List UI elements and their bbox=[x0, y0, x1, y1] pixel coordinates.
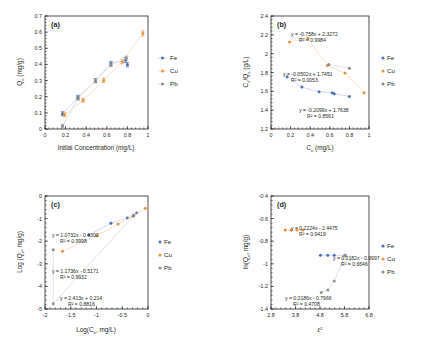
y-tick-label: 1.8 bbox=[261, 70, 269, 76]
legend-marker-cu bbox=[382, 258, 385, 261]
panel-b: 00.20.40.60.811.21.41.61.822.22.4 (b) y … bbox=[221, 0, 442, 179]
data-point-pb bbox=[109, 63, 112, 66]
panel-a-legend: FeCuPb bbox=[158, 54, 178, 87]
panel-d-xaxis-title: ε2 bbox=[317, 326, 323, 333]
legend-label-fe: Fe bbox=[170, 54, 178, 61]
data-point-pb bbox=[320, 291, 323, 294]
data-point-fe bbox=[326, 254, 329, 257]
x-tick-label: 0.6 bbox=[326, 132, 334, 138]
r-squared-line: R² = 0.9998 bbox=[60, 238, 87, 244]
y-tick-label: 1.2 bbox=[261, 126, 269, 132]
panel-b-label: (b) bbox=[277, 20, 287, 29]
panel-d-annotations: y = 0.2224x - 2.4475R² = 0.9419y = 0.018… bbox=[285, 225, 380, 307]
panel-d-legend: FeCuPb bbox=[382, 242, 396, 275]
panel-d-xlabel: ε2 bbox=[317, 326, 323, 333]
data-point-cu bbox=[117, 223, 120, 226]
x-tick-label: -0.5 bbox=[118, 312, 127, 318]
x-tick-label: 0.8 bbox=[346, 132, 354, 138]
data-point-pb bbox=[333, 279, 336, 282]
panel-d: 2.83.84.85.86.8-1.4-1.2-1-0.8-0.6-0.4 (d… bbox=[221, 180, 442, 359]
y-tick-label: 0.6 bbox=[35, 29, 43, 35]
data-point-cu bbox=[82, 99, 85, 102]
panel-c-plot: -2-1.5-1-0.50-5-4-3-2-10 (c) y = 1.0732x… bbox=[0, 180, 221, 359]
legend-label-cu: Cu bbox=[170, 67, 178, 74]
r-squared-line: R² = 0.9932 bbox=[60, 274, 87, 280]
y-tick-label: 2.4 bbox=[261, 13, 269, 19]
data-point-cu bbox=[343, 71, 346, 74]
legend-marker-pb bbox=[382, 83, 385, 86]
data-point-pb bbox=[52, 302, 55, 305]
x-tick-label: 2.8 bbox=[267, 312, 275, 318]
r-squared-line: R² = 0.8561 bbox=[307, 113, 334, 119]
panel-a-label: (a) bbox=[51, 20, 60, 29]
legend-label-cu: Cu bbox=[164, 251, 172, 258]
data-point-pb bbox=[326, 289, 329, 292]
trend-line-pb bbox=[53, 216, 133, 304]
legend-label-pb: Pb bbox=[387, 268, 395, 275]
data-point-pb bbox=[76, 97, 79, 100]
r-squared-line: R² = 0.6646 bbox=[341, 261, 368, 267]
legend-label-pb: Pb bbox=[387, 80, 395, 87]
y-tick-label: 0.4 bbox=[35, 61, 43, 67]
r-squared-line: R² = 0.9419 bbox=[299, 231, 326, 237]
x-tick-label: -2 bbox=[43, 312, 48, 318]
x-tick-label: 0 bbox=[147, 312, 150, 318]
data-point-cu bbox=[288, 40, 291, 43]
legend-marker-fe bbox=[161, 57, 164, 60]
panel-c-legend: FeCuPb bbox=[159, 238, 173, 271]
panel-c-axes bbox=[45, 196, 148, 309]
data-point-cu bbox=[144, 207, 147, 210]
data-point-cu bbox=[363, 91, 366, 94]
legend-label-fe: Fe bbox=[387, 54, 395, 61]
legend-marker-pb bbox=[159, 267, 162, 270]
panel-d-data bbox=[284, 228, 347, 294]
data-point-pb bbox=[94, 79, 97, 82]
legend-marker-fe bbox=[382, 57, 385, 60]
r-squared-line: R² = 0.0053 bbox=[291, 77, 318, 83]
panel-b-xaxis-title: Ce (mg/L) bbox=[306, 144, 333, 153]
panel-d-label: (d) bbox=[277, 200, 287, 209]
panel-c-yaxis-title: Log (Qe, mg/g) bbox=[16, 231, 25, 273]
y-tick-label: -5 bbox=[37, 306, 42, 312]
legend-label-pb: Pb bbox=[170, 80, 178, 87]
data-point-pb bbox=[327, 63, 330, 66]
legend-marker-pb bbox=[161, 83, 164, 86]
panel-b-yaxis-title: Ce/Qe (g/L) bbox=[242, 57, 251, 88]
data-point-fe bbox=[318, 90, 321, 93]
y-tick-label: 2 bbox=[265, 51, 268, 57]
data-point-fe bbox=[109, 222, 112, 225]
legend-label-fe: Fe bbox=[387, 242, 395, 249]
panel-d-yaxis-title: ln(Qe, mg/g) bbox=[242, 235, 251, 269]
x-tick-label: -1 bbox=[94, 312, 99, 318]
x-tick-label: -1.5 bbox=[66, 312, 75, 318]
data-point-fe bbox=[126, 63, 129, 66]
panel-b-xlabel: Ce (mg/L) bbox=[306, 144, 333, 153]
legend-marker-fe bbox=[382, 245, 385, 248]
panel-a: 00.20.40.60.8100.10.20.30.40.50.60.7 (a)… bbox=[0, 0, 221, 179]
panel-a-axes bbox=[45, 16, 148, 129]
panel-a-data bbox=[61, 31, 145, 128]
r-squared-line: R² = 0.4708 bbox=[293, 301, 320, 307]
data-point-pb bbox=[132, 214, 135, 217]
x-tick-label: 0.4 bbox=[82, 132, 90, 138]
data-point-pb bbox=[52, 248, 55, 251]
y-tick-label: 0.2 bbox=[35, 94, 43, 100]
panel-c-xaxis-title: Log(Ce, mg/L) bbox=[76, 326, 116, 335]
data-point-cu bbox=[102, 79, 105, 82]
x-tick-label: 0.8 bbox=[124, 132, 132, 138]
x-tick-label: 0.4 bbox=[306, 132, 314, 138]
x-tick-label: 1 bbox=[147, 132, 150, 138]
panel-a-xlabel: Initial Concentration (mg/L) bbox=[58, 144, 135, 152]
y-tick-label: -1 bbox=[263, 261, 268, 267]
y-tick-label: 0 bbox=[39, 126, 42, 132]
y-tick-label: 1.6 bbox=[261, 88, 269, 94]
legend-marker-cu bbox=[382, 70, 385, 73]
y-tick-label: -2 bbox=[37, 238, 42, 244]
legend-marker-pb bbox=[382, 271, 385, 274]
panel-a-ylabel: Qe (mg/g) bbox=[16, 58, 25, 86]
legend-marker-cu bbox=[159, 254, 162, 257]
data-point-pb bbox=[125, 57, 128, 60]
y-tick-label: -4 bbox=[37, 283, 42, 289]
x-tick-label: 4.8 bbox=[316, 312, 324, 318]
y-tick-label: 0 bbox=[39, 193, 42, 199]
